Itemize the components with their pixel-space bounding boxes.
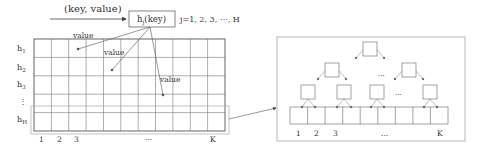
value-label-2: value <box>103 48 125 57</box>
svg-text:h1: h1 <box>17 44 26 54</box>
column-labels: 1 2 3 ··· K <box>39 135 216 144</box>
svg-text:3: 3 <box>74 135 79 144</box>
svg-text:···: ··· <box>145 135 152 144</box>
level3-node-3 <box>370 85 384 99</box>
value-label-1: value <box>72 31 94 40</box>
svg-text:3: 3 <box>333 129 338 138</box>
svg-text:⋮: ⋮ <box>19 97 27 106</box>
svg-text:K: K <box>437 129 443 138</box>
level2-ellipsis: ··· <box>378 72 385 80</box>
hash-arg: (key) <box>144 14 166 24</box>
root-node <box>363 42 377 56</box>
svg-text:h3: h3 <box>17 80 26 90</box>
level2-node-right <box>402 63 416 77</box>
highlighted-row-box <box>31 106 229 134</box>
svg-text:1: 1 <box>296 129 301 138</box>
level2-node-left <box>325 63 339 77</box>
svg-text:K: K <box>210 135 216 144</box>
hash-function-box: hj(key) <box>129 11 175 27</box>
count-matrix <box>34 39 225 131</box>
row-label-ellipsis: ⋮ <box>19 97 27 106</box>
hash-range-label: j=1, 2, 3, ⋯, H <box>179 15 240 24</box>
zoom-connector-arrow <box>229 108 276 119</box>
hash-sketch-diagram: (key, value) hj(key) j=1, 2, 3, ⋯, H h1 … <box>0 0 483 149</box>
svg-text:1: 1 <box>39 135 44 144</box>
level3-node-1 <box>301 85 315 99</box>
input-label: (key, value) <box>64 3 122 14</box>
row-labels: h1 h2 h3 ⋮ hH <box>17 44 27 125</box>
value-label-3: value <box>159 75 181 84</box>
svg-text:2: 2 <box>57 135 62 144</box>
level3-ellipsis: ··· <box>395 91 402 99</box>
svg-text:···: ··· <box>381 131 388 140</box>
svg-text:2: 2 <box>314 129 319 138</box>
svg-text:h2: h2 <box>17 63 26 73</box>
svg-text:hH: hH <box>17 115 27 125</box>
level3-node-2 <box>337 85 351 99</box>
tree-panel: ··· ··· 1 2 3 ··· K <box>277 37 465 141</box>
level3-node-4 <box>423 85 437 99</box>
